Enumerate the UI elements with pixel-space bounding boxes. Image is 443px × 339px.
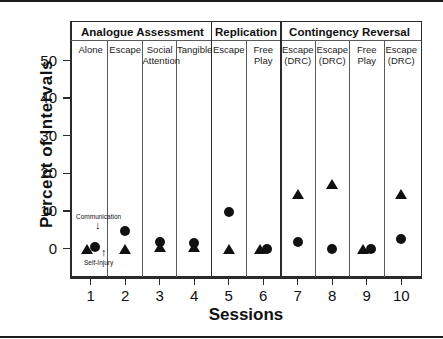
condition-header-5: Escape (211, 45, 246, 56)
condition-header-line1-3: Social (142, 45, 177, 56)
annotation-selfinjury-label: Self-Injury (84, 259, 113, 266)
condition-header-line1-2: Escape (108, 45, 143, 56)
x-tick-label-4: 4 (179, 287, 209, 304)
x-tick-2 (125, 278, 126, 285)
y-tick-label-50: 50 (0, 52, 57, 69)
x-tick-9 (366, 278, 367, 285)
condition-header-line1-8: Escape (315, 45, 350, 56)
data-point-self-injury-s7 (292, 189, 304, 199)
data-point-self-injury-s9 (357, 244, 369, 254)
y-tick-label-20: 20 (0, 164, 57, 181)
condition-header-line1-6: Free (246, 45, 281, 56)
data-point-self-injury-s8 (326, 179, 338, 189)
x-tick-label-1: 1 (76, 287, 106, 304)
x-tick-8 (332, 278, 333, 285)
condition-divider-8.5 (349, 40, 350, 277)
x-tick-label-3: 3 (145, 287, 175, 304)
condition-divider-9.5 (384, 40, 385, 277)
phase-header-0: Analogue Assessment (73, 26, 211, 38)
condition-header-2: Escape (108, 45, 143, 56)
y-tick-label-40: 40 (0, 89, 57, 106)
data-point-communication-s8 (327, 244, 337, 254)
x-tick-label-10: 10 (386, 287, 416, 304)
annotation-communication-arrow-icon: ↓ (95, 221, 101, 229)
y-tick-50 (63, 60, 70, 61)
x-tick-7 (297, 278, 298, 285)
data-point-self-injury-s2 (119, 244, 131, 254)
condition-divider-1.5 (107, 40, 108, 277)
x-tick-label-7: 7 (283, 287, 313, 304)
condition-header-line1-7: Escape (281, 45, 316, 56)
condition-header-line1-4: Tangible (177, 45, 212, 56)
condition-header-line2-10: (DRC) (384, 56, 419, 67)
y-tick-30 (63, 135, 70, 136)
condition-header-line2-3: Attention (142, 56, 177, 67)
phase-header-rule-0 (71, 40, 211, 41)
phase-divider-4.5 (211, 21, 213, 277)
x-tick-label-9: 9 (352, 287, 382, 304)
condition-divider-7.5 (315, 40, 316, 277)
figure-canvas: Percent of Intervals Sessions 0102030405… (0, 0, 443, 339)
condition-header-1: Alone (73, 45, 108, 56)
condition-header-line2-9: Play (350, 56, 385, 67)
x-axis-line (70, 277, 422, 279)
condition-header-9: FreePlay (350, 45, 385, 66)
x-tick-label-2: 2 (110, 287, 140, 304)
y-tick-label-0: 0 (0, 240, 57, 257)
condition-divider-5.5 (246, 40, 247, 277)
condition-header-line1-1: Alone (73, 45, 108, 56)
condition-header-line2-7: (DRC) (281, 56, 316, 67)
page-rule-top (0, 0, 443, 2)
data-point-self-injury-s6 (254, 244, 266, 254)
y-tick-40 (63, 97, 70, 98)
condition-header-3: SocialAttention (142, 45, 177, 66)
y-tick-0 (63, 248, 70, 249)
x-axis-title: Sessions (70, 305, 422, 325)
data-point-self-injury-s3 (154, 242, 166, 252)
annotation-selfinjury-arrow-icon: ↑ (101, 248, 107, 256)
x-tick-3 (159, 278, 160, 285)
condition-header-10: Escape(DRC) (384, 45, 419, 66)
data-point-communication-s5 (224, 207, 234, 217)
y-tick-label-10: 10 (0, 202, 57, 219)
condition-header-8: Escape(DRC) (315, 45, 350, 66)
x-tick-1 (90, 278, 91, 285)
phase-header-2: Contingency Reversal (281, 26, 419, 38)
phase-header-rule-1 (212, 40, 280, 41)
y-axis-line (70, 21, 72, 278)
condition-divider-2.5 (142, 40, 143, 277)
y-tick-10 (63, 210, 70, 211)
x-tick-5 (228, 278, 229, 285)
y-tick-20 (63, 173, 70, 174)
condition-divider-3.5 (176, 40, 177, 277)
data-point-self-injury-s5 (223, 244, 235, 254)
x-tick-label-5: 5 (214, 287, 244, 304)
phase-header-rule-2 (282, 40, 422, 41)
condition-header-line1-9: Free (350, 45, 385, 56)
condition-header-line2-8: (DRC) (315, 56, 350, 67)
y-tick-label-30: 30 (0, 127, 57, 144)
phase-header-1: Replication (211, 26, 280, 38)
data-point-communication-s7 (293, 237, 303, 247)
condition-header-line1-5: Escape (211, 45, 246, 56)
x-tick-10 (401, 278, 402, 285)
condition-header-7: Escape(DRC) (281, 45, 316, 66)
x-tick-label-8: 8 (317, 287, 347, 304)
condition-header-line1-10: Escape (384, 45, 419, 56)
condition-header-line2-6: Play (246, 56, 281, 67)
data-point-self-injury-s4 (188, 242, 200, 252)
x-tick-label-6: 6 (248, 287, 278, 304)
x-tick-6 (263, 278, 264, 285)
data-point-self-injury-s10 (395, 189, 407, 199)
condition-header-6: FreePlay (246, 45, 281, 66)
condition-header-4: Tangible (177, 45, 212, 56)
data-point-self-injury-s1 (81, 244, 93, 254)
x-tick-4 (194, 278, 195, 285)
data-point-communication-s10 (396, 234, 406, 244)
page-rule-bottom (0, 336, 443, 338)
